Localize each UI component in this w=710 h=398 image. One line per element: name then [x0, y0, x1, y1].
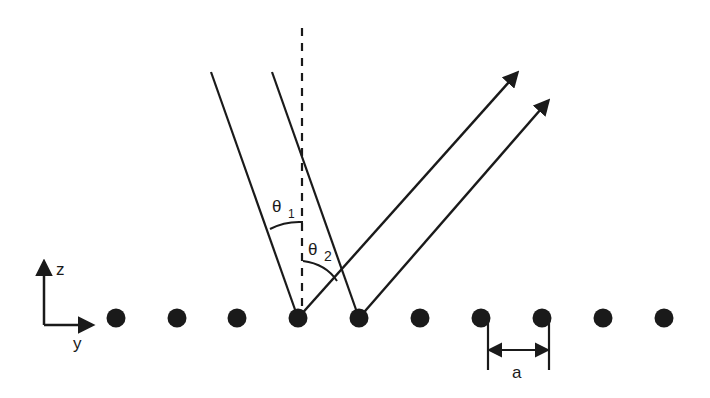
atom	[168, 309, 187, 328]
theta1-arc	[270, 222, 303, 229]
atom	[228, 309, 247, 328]
diagram-canvas: z y θ 1 θ 2 a	[0, 0, 710, 398]
scattered-ray-1	[298, 73, 517, 318]
atom	[411, 309, 430, 328]
spacing-label: a	[512, 363, 522, 382]
atom	[594, 309, 613, 328]
atom	[107, 309, 126, 328]
atom-row	[107, 309, 674, 328]
z-axis-label: z	[56, 260, 65, 279]
atom	[655, 309, 674, 328]
theta2-subscript: 2	[324, 248, 332, 264]
theta1-symbol: θ	[272, 197, 281, 216]
y-axis-label: y	[73, 334, 82, 353]
theta2-arc	[303, 261, 337, 281]
scattered-ray-2	[359, 101, 548, 318]
axis-indicator: z y	[44, 260, 92, 353]
atom	[289, 309, 308, 328]
diffraction-diagram: z y θ 1 θ 2 a	[0, 0, 710, 398]
lattice-spacing-indicator: a	[488, 318, 549, 382]
theta1-subscript: 1	[288, 207, 295, 221]
theta2-symbol: θ	[308, 240, 317, 259]
atom	[350, 309, 369, 328]
